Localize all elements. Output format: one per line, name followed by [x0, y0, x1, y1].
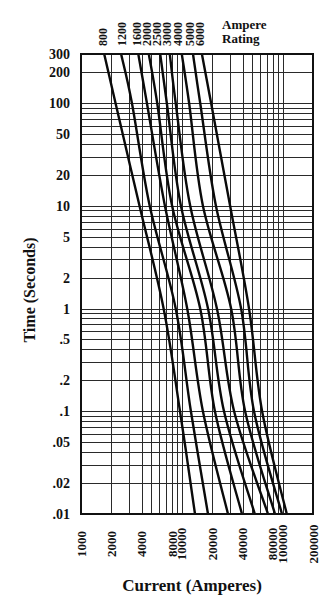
y-tick-label: 200: [49, 65, 70, 80]
y-tick-label: .2: [60, 373, 71, 388]
x-tick-label: 10000: [174, 528, 189, 561]
background: [0, 0, 335, 614]
x-axis-title: Current (Amperes): [122, 576, 262, 595]
x-tick-label: 200000: [306, 525, 321, 564]
rating-label-800: 800: [96, 28, 110, 46]
x-tick-label: 2000: [104, 531, 119, 557]
x-tick-label: 100000: [275, 525, 290, 564]
legend-title-line-1: Ampere: [222, 17, 267, 32]
y-tick-label: 20: [56, 168, 70, 183]
y-tick-label: 100: [49, 96, 70, 111]
y-tick-label: 1: [63, 302, 70, 317]
x-tick-label: 1000: [74, 531, 89, 557]
x-tick-label: 40000: [235, 528, 250, 561]
y-tick-label: 10: [56, 199, 70, 214]
rating-label-6000: 6000: [193, 22, 207, 46]
y-tick-label: .05: [53, 435, 71, 450]
x-tick-label: 20000: [205, 528, 220, 561]
y-tick-label: .01: [53, 507, 71, 522]
y-tick-label: .02: [53, 476, 71, 491]
x-tick-label: 4000: [134, 531, 149, 557]
y-tick-label: .5: [60, 332, 71, 347]
fuse-time-current-chart: 300200100502010521.5.2.1.05.02.01 100020…: [0, 0, 335, 614]
y-tick-label: 2: [63, 271, 70, 286]
y-tick-label: 300: [49, 47, 70, 62]
y-tick-label: 5: [63, 230, 70, 245]
y-axis-title: Time (Seconds): [21, 237, 39, 342]
y-tick-label: .1: [60, 404, 71, 419]
y-tick-label: 50: [56, 127, 70, 142]
rating-label-1200: 1200: [115, 22, 129, 46]
legend-title-line-2: Rating: [222, 31, 260, 46]
